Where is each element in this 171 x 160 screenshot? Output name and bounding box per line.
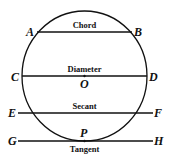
- point-d-label: D: [148, 70, 158, 84]
- point-b-label: B: [133, 25, 142, 39]
- point-f-label: F: [153, 106, 162, 120]
- point-e-label: E: [7, 106, 16, 120]
- tangent-point: [83, 140, 85, 142]
- tangent-label: Tangent: [70, 144, 100, 154]
- point-o-label: O: [80, 77, 89, 91]
- circle-diagram: Chord Diameter Secant Tangent A B C D O …: [0, 0, 171, 160]
- point-c-label: C: [11, 70, 20, 84]
- point-h-label: H: [153, 134, 164, 148]
- chord-label: Chord: [73, 20, 97, 30]
- secant-label: Secant: [72, 101, 96, 111]
- point-p-label: P: [80, 126, 88, 140]
- point-g-label: G: [8, 134, 17, 148]
- diameter-label: Diameter: [68, 64, 102, 74]
- point-a-label: A: [25, 25, 34, 39]
